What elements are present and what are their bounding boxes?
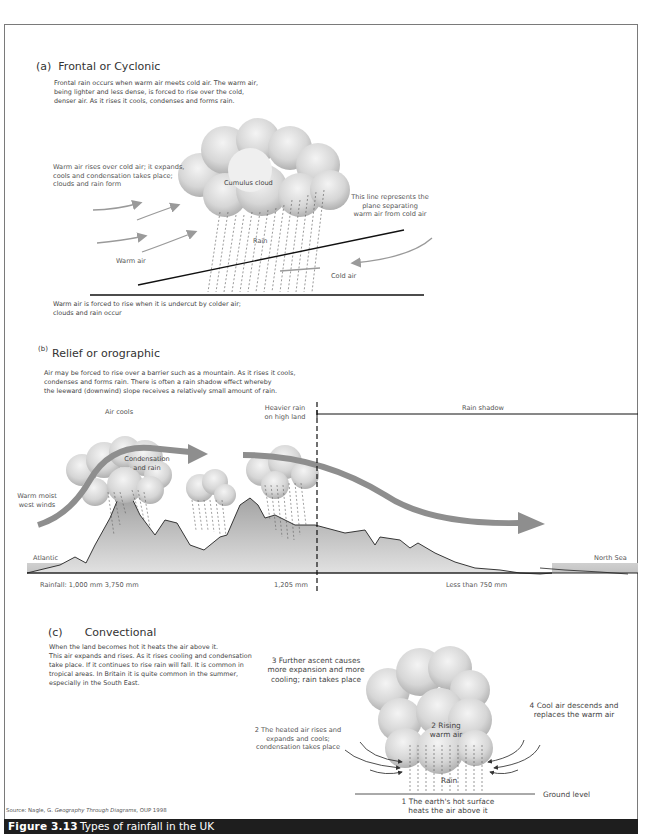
rain-shadow-label: Rain shadow — [462, 404, 504, 413]
frontal-description: Frontal rain occurs when warm air meets … — [54, 79, 258, 106]
frontal-heading: (a) Frontal or Cyclonic — [36, 60, 160, 73]
section-letter: (a) — [36, 60, 51, 73]
warm-moist-label: Warm moist west winds — [14, 492, 60, 509]
rainfall-mid-label: 1,205 mm — [274, 581, 308, 590]
frontal-cloud — [178, 118, 350, 217]
relief-title: Relief or orographic — [52, 347, 160, 360]
condensation-label: Condensation and rain — [122, 455, 172, 472]
figure-caption-bar: Figure 3.13 Types of rainfall in the UK — [4, 819, 638, 834]
ground-level-label: Ground level — [543, 790, 590, 799]
rainfall-west-label: Rainfall: 1,000 mm 3,750 mm — [40, 581, 139, 590]
relief-letter: (b) — [38, 345, 48, 353]
section-letter: (c) — [48, 626, 63, 639]
plane-label: This line represents the plane separatin… — [349, 193, 431, 219]
figure-number: Figure 3.13 — [8, 820, 78, 832]
relief-description: Air may be forced to rise over a barrier… — [44, 369, 295, 396]
warm-air-arrows — [93, 203, 195, 252]
convectional-description: When the land becomes hot it heats the a… — [49, 643, 252, 688]
step1-label: 1 The earth's hot surface heats the air … — [393, 797, 503, 816]
section-title: Convectional — [85, 626, 157, 639]
cumulus-cloud-label: Cumulus cloud — [224, 179, 273, 188]
source-citation: Source: Nagle, G. Geography Through Diag… — [6, 807, 167, 813]
cold-air-arrow — [353, 238, 432, 263]
convectional-heading: (c)Convectional — [48, 626, 156, 639]
step2-left-label: 2 The heated air rises and expands and c… — [252, 726, 344, 752]
frontal-footer: Warm air is forced to rise when it is un… — [53, 300, 241, 318]
cold-air-label: Cold air — [331, 272, 356, 281]
section-title: Frontal or Cyclonic — [58, 60, 160, 73]
convection-rain-label: Rain — [441, 776, 457, 785]
step4-label: 4 Cool air descends and replaces the war… — [526, 701, 622, 720]
warm-air-label: Warm air — [116, 257, 146, 266]
rainfall-east-label: Less than 750 mm — [446, 581, 507, 590]
step2-cloud-label: 2 Rising warm air — [424, 721, 468, 740]
warm-rises-label: Warm air rises over cold air; it expands… — [53, 163, 184, 189]
figure-title: Types of rainfall in the UK — [80, 820, 214, 832]
step3-label: 3 Further ascent causes more expansion a… — [263, 656, 369, 684]
atlantic-label: Atlantic — [33, 554, 58, 563]
heavier-rain-label: Heavier rain on high land — [260, 404, 310, 421]
air-cools-label: Air cools — [105, 408, 133, 417]
north-sea-label: North Sea — [594, 554, 627, 563]
rain-label: Rain — [253, 237, 268, 246]
